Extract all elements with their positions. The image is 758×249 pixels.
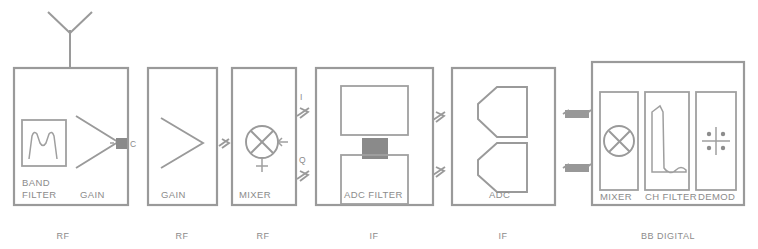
antenna-icon bbox=[48, 12, 92, 68]
iq-label-q: Q bbox=[299, 155, 306, 165]
channel-filter-icon bbox=[652, 106, 686, 173]
demod-label: DEMOD bbox=[698, 191, 735, 202]
gain-label-2: GAIN bbox=[161, 189, 186, 200]
connector-digital-bus-2[interactable] bbox=[563, 164, 591, 172]
adc-label: ADC bbox=[489, 189, 510, 200]
block-rf-gain[interactable]: GAIN bbox=[148, 68, 217, 205]
band-filter-icon bbox=[22, 120, 66, 166]
band-filter-label-line2: FILTER bbox=[22, 189, 56, 200]
stage-label-if-2: IF bbox=[499, 231, 508, 241]
stage-label-if-1: IF bbox=[370, 231, 379, 241]
connector-label-c: C bbox=[130, 139, 136, 149]
constellation-icon bbox=[702, 127, 730, 155]
filter-box-upper bbox=[341, 86, 408, 135]
receiver-chain-diagram: BAND FILTER GAIN C GAIN bbox=[0, 0, 758, 249]
block-adc[interactable]: ADC bbox=[452, 68, 555, 205]
connector-saw-filter-2[interactable] bbox=[219, 139, 229, 148]
stage-label-rf-3: RF bbox=[257, 231, 270, 241]
stage-label-bb-digital: BB DIGITAL bbox=[641, 231, 695, 241]
mixer-icon bbox=[604, 126, 634, 156]
amplifier-icon bbox=[161, 118, 203, 168]
iq-label-i: I bbox=[300, 92, 303, 102]
mixer-icon bbox=[246, 126, 288, 172]
stage-label-rf-2: RF bbox=[176, 231, 189, 241]
band-filter-label-line1: BAND bbox=[22, 177, 50, 188]
ch-filter-label: CH FILTER bbox=[645, 191, 697, 202]
connector-saw-filter-i[interactable]: I bbox=[297, 92, 309, 118]
gain-label-1: GAIN bbox=[80, 189, 105, 200]
bb-demod-subblock[interactable] bbox=[696, 92, 736, 190]
connector-saw-filter-3[interactable] bbox=[433, 112, 445, 122]
bb-mixer-subblock[interactable] bbox=[600, 92, 638, 190]
block-adc-filter[interactable]: ADC FILTER bbox=[316, 68, 433, 205]
mixer-bb-label: MIXER bbox=[600, 191, 632, 202]
adc-icon-i bbox=[478, 87, 527, 137]
block-rf-front-end[interactable]: BAND FILTER GAIN bbox=[14, 68, 128, 205]
bb-ch-filter-subblock[interactable] bbox=[645, 92, 689, 190]
mixer-rf-label: MIXER bbox=[239, 189, 271, 200]
block-bb-digital[interactable]: MIXER CH FILTER DEMOD bbox=[592, 62, 744, 205]
connector-saw-filter-q[interactable]: Q bbox=[297, 155, 309, 181]
connector-saw-filter-4[interactable] bbox=[433, 167, 445, 177]
adc-icon-q bbox=[478, 143, 527, 192]
block-rf-mixer[interactable]: MIXER bbox=[232, 68, 296, 205]
connector-digital-bus-1[interactable] bbox=[563, 110, 591, 118]
stage-label-rf-1: RF bbox=[57, 231, 70, 241]
amplifier-icon bbox=[76, 116, 118, 168]
adc-filter-label: ADC FILTER bbox=[344, 189, 403, 200]
